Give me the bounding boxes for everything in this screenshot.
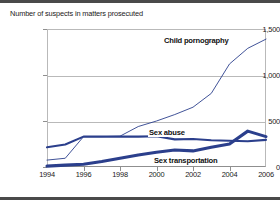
series-label-sex-abuse: Sex abuse bbox=[148, 128, 186, 137]
series-layer bbox=[0, 0, 280, 200]
chart-figure: Number of suspects in matters prosecuted… bbox=[0, 0, 280, 200]
series-label-sex-transportation: Sex transportation bbox=[153, 156, 219, 165]
series-label-child-pornography: Child pornography bbox=[163, 36, 230, 45]
